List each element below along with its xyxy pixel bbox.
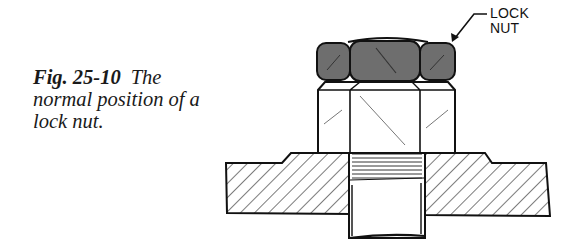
lock-nut [317, 38, 455, 81]
bolt-shaft [349, 153, 425, 238]
hex-nut [318, 82, 455, 153]
callout-leader-arrow [451, 14, 487, 42]
lock-nut-illustration [0, 0, 575, 250]
